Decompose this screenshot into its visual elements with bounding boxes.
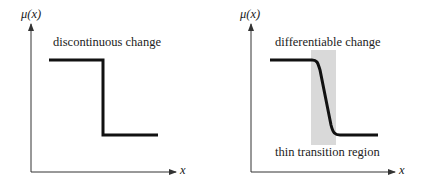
right-panel-title: differentiable change xyxy=(275,36,381,49)
step-curve xyxy=(49,60,158,135)
transition-region-label: thin transition region xyxy=(275,146,380,159)
left-y-axis-label: μ(x) xyxy=(21,8,41,21)
left-panel-title: discontinuous change xyxy=(53,36,161,49)
right-y-axis-label: μ(x) xyxy=(240,8,260,21)
right-x-axis-label: x xyxy=(399,164,405,177)
left-x-axis-label: x xyxy=(180,164,186,177)
